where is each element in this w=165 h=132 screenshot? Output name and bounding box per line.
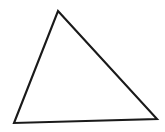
triangle-drawing [0,0,165,132]
figure-canvas [0,0,165,132]
triangle-shape [14,11,157,123]
